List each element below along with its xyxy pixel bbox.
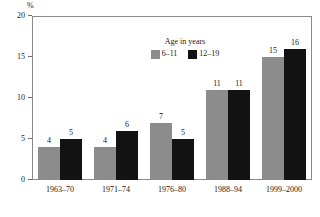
y-tick-label: 20 <box>17 10 25 21</box>
bar <box>262 57 284 180</box>
x-axis-label: 1988–94 <box>200 184 256 195</box>
bar-chart: % 05101520 45467511111516 Age in years 6… <box>0 0 320 217</box>
bar-value-label: 7 <box>150 112 172 122</box>
bar-value-label: 16 <box>284 38 306 48</box>
legend-item: 6–11 <box>151 49 178 59</box>
y-tick-label: 10 <box>17 92 25 103</box>
legend-title: Age in years <box>126 36 244 47</box>
legend-item-label: 6–11 <box>162 49 178 59</box>
bar-value-label: 15 <box>262 46 284 56</box>
chart-legend: Age in years 6–1112–19 <box>126 36 244 59</box>
bar <box>172 139 194 180</box>
y-axis-unit-label: % <box>27 1 34 11</box>
bar-value-label: 4 <box>94 136 116 146</box>
y-tick-label: 0 <box>21 174 25 185</box>
bar <box>284 49 306 180</box>
legend-swatch-icon <box>188 50 197 59</box>
x-axis-label: 1971–74 <box>88 184 144 195</box>
bar <box>94 147 116 180</box>
bar-value-label: 5 <box>60 128 82 138</box>
bar <box>60 139 82 180</box>
bar-value-label: 6 <box>116 120 138 130</box>
legend-item: 12–19 <box>188 49 219 59</box>
x-axis-label: 1999–2000 <box>256 184 312 195</box>
bar-value-label: 5 <box>172 128 194 138</box>
bar-group: 1516 <box>262 16 306 180</box>
bar <box>150 123 172 180</box>
legend-items: 6–1112–19 <box>126 49 244 59</box>
bar-value-label: 11 <box>206 79 228 89</box>
legend-item-label: 12–19 <box>199 49 219 59</box>
bar <box>38 147 60 180</box>
y-tick-label: 15 <box>17 51 25 62</box>
x-axis-label: 1963–70 <box>32 184 88 195</box>
legend-swatch-icon <box>151 50 160 59</box>
bar <box>206 90 228 180</box>
x-axis-labels: 1963–701971–741976–801988–941999–2000 <box>32 184 312 204</box>
bar-group: 45 <box>38 16 82 180</box>
bar-value-label: 4 <box>38 136 60 146</box>
bar <box>116 131 138 180</box>
x-axis-label: 1976–80 <box>144 184 200 195</box>
bar <box>228 90 250 180</box>
bar-value-label: 11 <box>228 79 250 89</box>
y-tick-label: 5 <box>21 133 25 144</box>
